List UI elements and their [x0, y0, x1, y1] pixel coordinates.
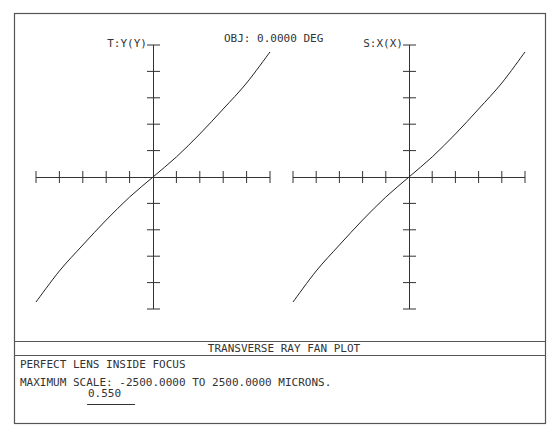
- tangential-axis-label: T:Y(Y): [107, 37, 147, 50]
- lens-description: PERFECT LENS INSIDE FOCUS: [20, 358, 186, 371]
- scale-description: MAXIMUM SCALE: -2500.0000 TO 2500.0000 M…: [20, 376, 331, 389]
- object-field-title: OBJ: 0.0000 DEG: [224, 32, 323, 45]
- sagittal-axis-label: S:X(X): [363, 37, 403, 50]
- wavelength-label: 0.550: [88, 387, 121, 400]
- ray-fan-plot-window: OBJ: 0.0000 DEG T:Y(Y) S:X(X) TRANSVERSE…: [0, 0, 555, 436]
- sagittal-plot: S:X(X): [293, 37, 525, 309]
- tangential-plot: T:Y(Y): [36, 37, 270, 309]
- plot-type-title: TRANSVERSE RAY FAN PLOT: [208, 342, 361, 355]
